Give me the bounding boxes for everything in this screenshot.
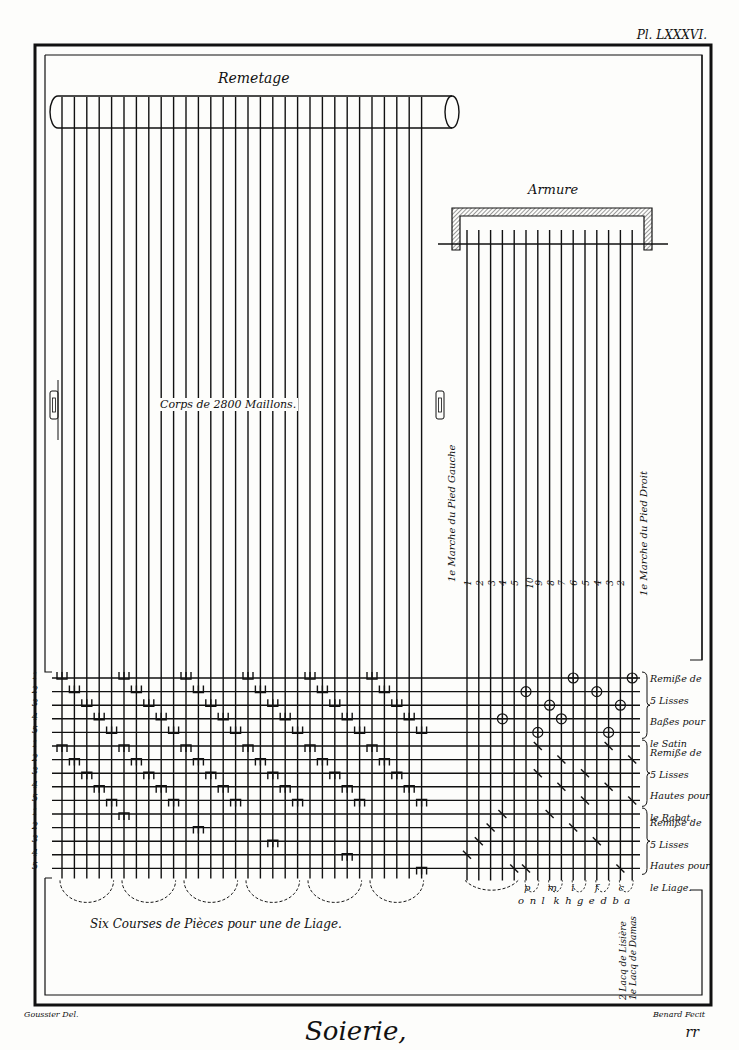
marche-number: 7 bbox=[557, 580, 567, 586]
row-label: 3 bbox=[24, 765, 38, 776]
row-label: 2 bbox=[24, 684, 38, 695]
corps-label: Corps de 2800 Maillons. bbox=[158, 398, 298, 411]
side-line: 5 Lisses bbox=[650, 764, 710, 786]
row-label: 1 bbox=[24, 670, 38, 681]
plate-number: Pl. LXXXVI. bbox=[637, 28, 707, 42]
marche-number: 2 bbox=[475, 580, 485, 586]
side-label-liage: Remiße de 5 Lisses Hautes pour le Liage. bbox=[650, 812, 710, 898]
row-label: 4 bbox=[24, 847, 38, 858]
warp-roller-end-left bbox=[50, 96, 58, 128]
row-label: 2 bbox=[24, 752, 38, 763]
cord-letter-lower: o bbox=[518, 895, 524, 906]
marche-number: 5 bbox=[510, 580, 520, 586]
marche-number: 4 bbox=[593, 580, 603, 586]
cord-letter-lower: a bbox=[624, 895, 630, 906]
engraving-plate: Pl. LXXXVI. Remetage Armure Corps de 280… bbox=[0, 0, 739, 1050]
course-loop bbox=[246, 880, 300, 902]
signature-engraver: Benard Fecit bbox=[653, 1010, 705, 1019]
inner-frame bbox=[45, 55, 702, 995]
warp-roller bbox=[58, 96, 452, 128]
row-label: 2 bbox=[24, 820, 38, 831]
courses-caption: Six Courses de Pièces pour une de Liage. bbox=[90, 917, 342, 931]
cord-letter-upper: p bbox=[524, 882, 530, 893]
marche-number: 9 bbox=[534, 580, 544, 586]
right-marche-label: 1e Marche du Pied Droit bbox=[638, 471, 649, 596]
brace bbox=[642, 672, 650, 738]
marche-number: 6 bbox=[569, 580, 579, 586]
marche-number: 2 bbox=[616, 580, 626, 586]
row-label: 5 bbox=[24, 860, 38, 871]
clip-icon bbox=[436, 391, 444, 419]
course-loop bbox=[184, 880, 238, 902]
row-label: 4 bbox=[24, 711, 38, 722]
cord-letter-upper: i bbox=[571, 882, 574, 893]
row-label: 1 bbox=[24, 738, 38, 749]
side-line: Baßes pour bbox=[650, 711, 705, 733]
side-line: Remiße de bbox=[650, 742, 710, 764]
signature-draughtsman: Goussier Del. bbox=[24, 1010, 78, 1019]
warp-roller-end-right bbox=[445, 96, 459, 128]
course-loop bbox=[308, 880, 362, 902]
marche-number: 3 bbox=[604, 580, 614, 586]
cord-letter-lower: e bbox=[589, 895, 595, 906]
course-loop bbox=[60, 880, 114, 902]
left-marche-label: 1e Marche du Pied Gauche bbox=[446, 445, 457, 582]
marche-number: 5 bbox=[581, 580, 591, 586]
cord-letter-lower: d bbox=[601, 895, 607, 906]
side-line: 5 Lisses bbox=[650, 690, 705, 712]
cord-letter-lower: k bbox=[553, 895, 559, 906]
marche-number: 3 bbox=[486, 580, 496, 586]
armure-title: Armure bbox=[528, 182, 578, 197]
cord-letter-upper: m bbox=[548, 882, 557, 893]
marche-number: 1 bbox=[463, 580, 473, 586]
cord-letter-lower: l bbox=[542, 895, 545, 906]
side-line: Remiße de bbox=[650, 668, 705, 690]
brace bbox=[642, 808, 650, 874]
cord-letter-upper: f bbox=[595, 882, 599, 893]
course-loop bbox=[370, 880, 424, 902]
armure-loop bbox=[465, 880, 518, 890]
row-label: 5 bbox=[24, 792, 38, 803]
row-label: 4 bbox=[24, 779, 38, 790]
side-line: Hautes pour bbox=[650, 785, 710, 807]
plate-drawing bbox=[0, 0, 739, 1050]
plate-title: Soierie, bbox=[305, 1016, 407, 1046]
row-label: 3 bbox=[24, 697, 38, 708]
clip-icon bbox=[50, 391, 58, 419]
cord-letter-lower: h bbox=[565, 895, 571, 906]
marche-number: 8 bbox=[545, 580, 555, 586]
row-label: 1 bbox=[24, 806, 38, 817]
row-label: 3 bbox=[24, 833, 38, 844]
side-line: Remiße de bbox=[650, 812, 710, 834]
marche-number: 4 bbox=[498, 580, 508, 586]
page-mark: rr bbox=[686, 1024, 699, 1040]
course-loop bbox=[122, 880, 176, 902]
cord-letter-lower: g bbox=[577, 895, 583, 906]
row-label: 5 bbox=[24, 724, 38, 735]
side-line: Hautes pour bbox=[650, 855, 710, 877]
lacq-damas-label: 1e Lacq de Damas bbox=[628, 916, 638, 1000]
cord-letter-upper: c bbox=[618, 882, 624, 893]
side-line: le Liage. bbox=[650, 877, 710, 899]
cord-letter-lower: n bbox=[530, 895, 536, 906]
brace bbox=[642, 740, 650, 806]
lacq-lisiere-label: 2 Lacq de Lisière bbox=[618, 921, 628, 1000]
side-line: 5 Lisses bbox=[650, 834, 710, 856]
remetage-title: Remetage bbox=[218, 70, 290, 86]
cord-letter-lower: b bbox=[612, 895, 618, 906]
